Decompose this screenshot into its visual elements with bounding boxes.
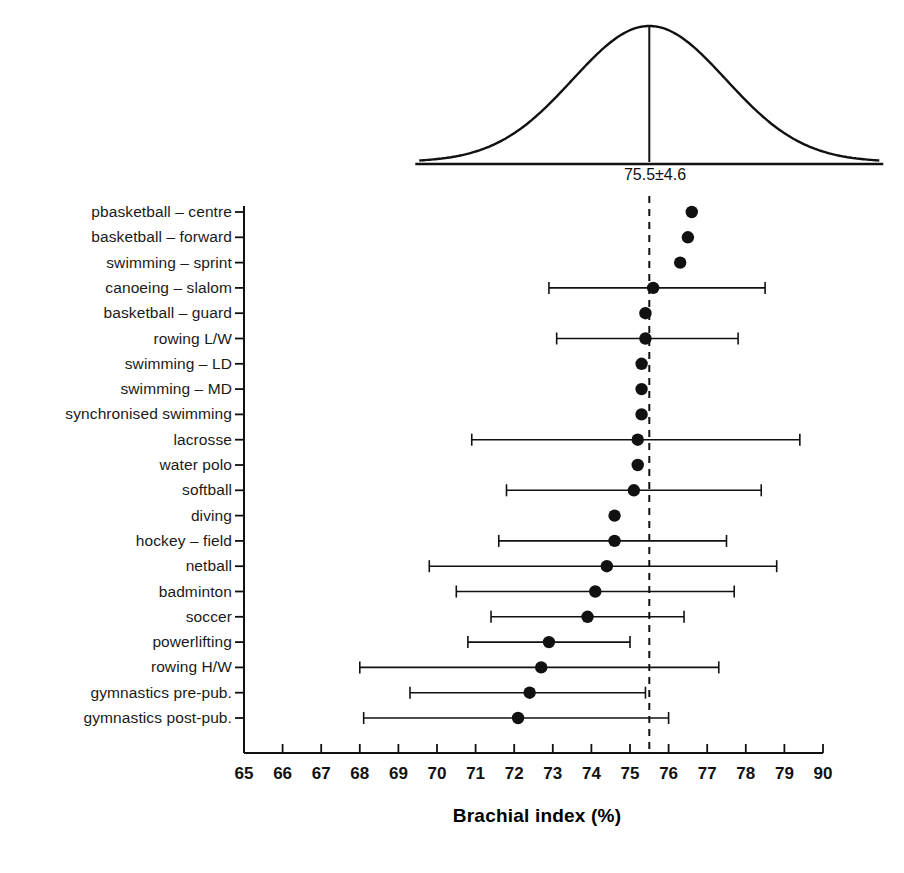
data-point (535, 661, 547, 673)
data-point (682, 231, 694, 243)
data-point (601, 560, 613, 572)
x-tick-label: 74 (582, 765, 601, 782)
data-point (608, 535, 620, 547)
data-point (639, 332, 651, 344)
x-tick-label: 76 (659, 765, 678, 782)
data-point (608, 509, 620, 521)
data-series-group (360, 206, 800, 724)
x-tick-label: 69 (389, 765, 408, 782)
axes-group (235, 196, 823, 753)
data-point (635, 358, 647, 370)
x-axis-ticks (244, 744, 823, 753)
x-tick-label: 71 (466, 765, 485, 782)
data-point (581, 611, 593, 623)
x-tick-label: 68 (350, 765, 369, 782)
x-tick-label: 72 (505, 765, 524, 782)
x-tick-label: 70 (428, 765, 447, 782)
data-point (635, 408, 647, 420)
data-point (632, 434, 644, 446)
data-point (639, 307, 651, 319)
data-point (647, 282, 659, 294)
distribution-curve-group (415, 26, 883, 164)
data-point (628, 484, 640, 496)
data-point (523, 687, 535, 699)
x-tick-label: 78 (736, 765, 755, 782)
data-point (686, 206, 698, 218)
data-point (635, 383, 647, 395)
x-tick-label: 73 (543, 765, 562, 782)
x-tick-label: 67 (312, 765, 331, 782)
data-point (543, 636, 555, 648)
x-axis-title: Brachial index (%) (453, 806, 621, 825)
x-tick-label: 66 (273, 765, 292, 782)
data-point (589, 585, 601, 597)
plot-canvas (0, 0, 904, 873)
distribution-caption: 75.5±4.6 (624, 167, 686, 183)
x-tick-label: 77 (698, 765, 717, 782)
x-tick-label: 79 (775, 765, 794, 782)
y-axis-ticks (235, 212, 244, 718)
x-tick-label: 75 (621, 765, 640, 782)
data-point (512, 712, 524, 724)
x-tick-label: 90 (814, 765, 833, 782)
page-edge (0, 855, 904, 873)
data-point (632, 459, 644, 471)
data-point (674, 256, 686, 268)
x-tick-label: 65 (235, 765, 254, 782)
brachial-index-forest-plot: pbasketball – centrebasketball – forward… (0, 0, 904, 873)
